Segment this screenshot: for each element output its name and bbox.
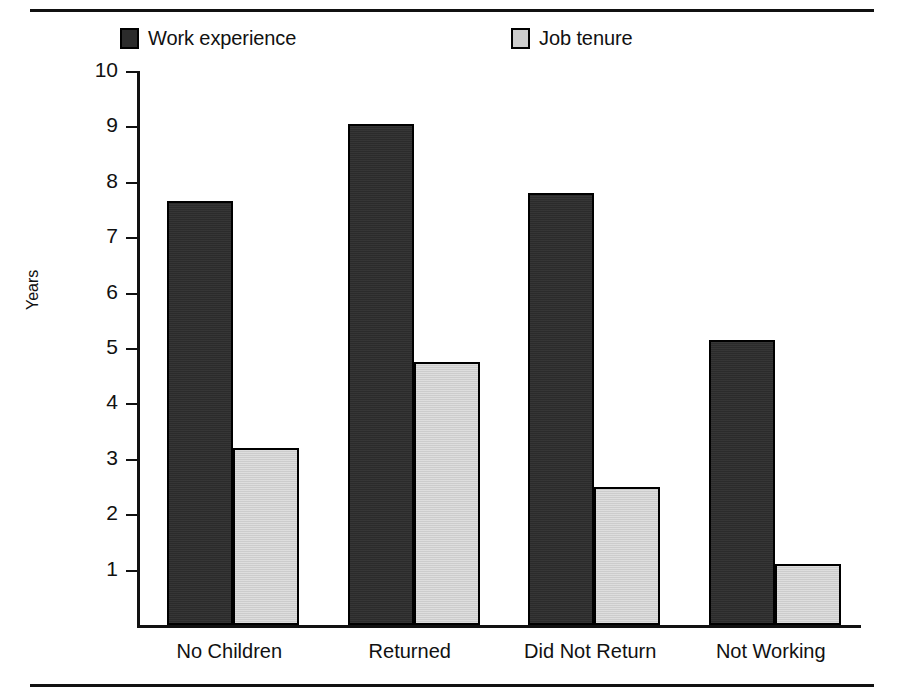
y-axis-tick-label: 3: [106, 447, 118, 469]
bar: [167, 201, 233, 625]
legend-entry-work-experience: Work experience: [120, 25, 296, 51]
y-axis-tick-label: 5: [106, 336, 118, 358]
chart-legend: Work experience Job tenure: [120, 25, 820, 55]
y-axis-tick: 6: [126, 293, 138, 295]
bar-group: [528, 71, 660, 625]
frame-bottom-rule: [30, 684, 874, 687]
bar: [594, 487, 660, 626]
x-axis-category-label: Did Not Return: [500, 640, 681, 662]
legend-label: Work experience: [148, 27, 296, 50]
y-axis-tick: 5: [126, 348, 138, 350]
y-axis-tick-label: 2: [106, 502, 118, 524]
y-axis-tick-label: 1: [106, 558, 118, 580]
bar: [233, 448, 299, 625]
legend-label: Job tenure: [539, 27, 633, 50]
bar: [528, 193, 594, 625]
y-axis-tick: 10: [126, 71, 138, 73]
y-axis-tick: 7: [126, 237, 138, 239]
bar: [414, 362, 480, 625]
y-axis-tick: 8: [126, 182, 138, 184]
y-axis-title: Years: [24, 280, 42, 310]
x-axis-baseline: [137, 625, 861, 628]
y-axis-tick: 3: [126, 459, 138, 461]
bar-group: [348, 71, 480, 625]
y-axis-tick-label: 7: [106, 225, 118, 247]
y-axis-tick-label: 8: [106, 170, 118, 192]
chart-figure: Work experience Job tenure Years 1234567…: [0, 0, 897, 694]
x-axis-category-label: Returned: [320, 640, 501, 662]
y-axis-tick: 1: [126, 570, 138, 572]
x-axis-category-label: No Children: [139, 640, 320, 662]
bar: [709, 340, 775, 625]
y-axis-tick-label: 9: [106, 114, 118, 136]
frame-top-rule: [30, 9, 874, 12]
x-axis-category-label: Not Working: [681, 640, 862, 662]
legend-swatch-dark-icon: [120, 28, 139, 49]
y-axis-tick: 2: [126, 514, 138, 516]
bar-group: [709, 71, 841, 625]
y-axis-tick-label: 6: [106, 281, 118, 303]
y-axis-tick: 4: [126, 403, 138, 405]
bar: [775, 564, 841, 625]
y-axis-tick-label: 10: [95, 59, 118, 81]
bar: [348, 124, 414, 625]
legend-swatch-light-icon: [511, 28, 530, 49]
legend-entry-job-tenure: Job tenure: [511, 25, 633, 51]
plot-area: 12345678910: [139, 71, 861, 628]
y-axis-tick: 9: [126, 126, 138, 128]
y-axis-tick-label: 4: [106, 391, 118, 413]
bar-group: [167, 71, 299, 625]
